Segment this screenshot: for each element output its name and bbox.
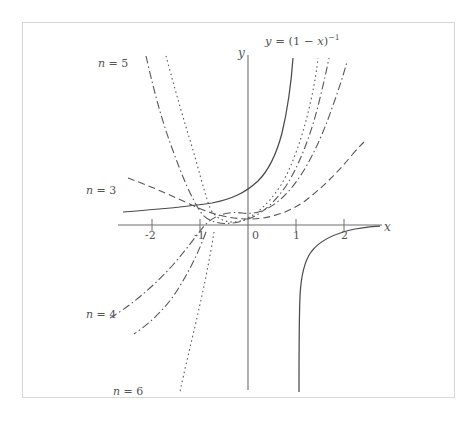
curve-label-n5: n = 5 <box>98 57 128 70</box>
curve-n4 <box>110 62 347 318</box>
curve-solid-upper-branch <box>123 58 293 212</box>
curve-label-n6: n = 6 <box>113 385 143 398</box>
x-axis-label: x <box>384 220 391 234</box>
curve-n4-lower <box>134 232 206 334</box>
x-tick-label--2: -2 <box>145 229 156 242</box>
axes-group <box>118 55 382 390</box>
function-label-eq: = (1 − <box>272 34 318 48</box>
function-label-exponent: −1 <box>328 33 340 42</box>
curve-label-n5-value: 5 <box>121 57 128 70</box>
x-tick-label--1: -1 <box>194 229 205 242</box>
curve-label-n4-eq: = <box>93 308 109 321</box>
curve-n5 <box>146 56 329 223</box>
curve-label-n4-value: 4 <box>109 308 116 321</box>
curve-label-n3: n = 3 <box>86 184 116 197</box>
curve-solid-lower-branch <box>299 226 380 392</box>
curve-label-n6-eq: = <box>120 385 136 398</box>
plot-canvas <box>0 0 474 428</box>
curve-label-n3-eq: = <box>93 184 109 197</box>
curve-n6-lower <box>180 232 214 392</box>
curve-n3-right <box>352 142 364 155</box>
x-tick-label-0: 0 <box>252 229 259 242</box>
curve-n6 <box>166 56 318 222</box>
curve-label-n4: n = 4 <box>86 308 116 321</box>
y-axis-label: y <box>238 46 245 60</box>
function-label: y = (1 − x)−1 <box>265 33 340 48</box>
curve-label-n3-value: 3 <box>109 184 116 197</box>
curve-label-n5-eq: = <box>105 57 121 70</box>
x-tick-label-1: 1 <box>293 229 300 242</box>
x-tick-label-2: 2 <box>341 229 348 242</box>
curve-label-n6-value: 6 <box>136 385 143 398</box>
